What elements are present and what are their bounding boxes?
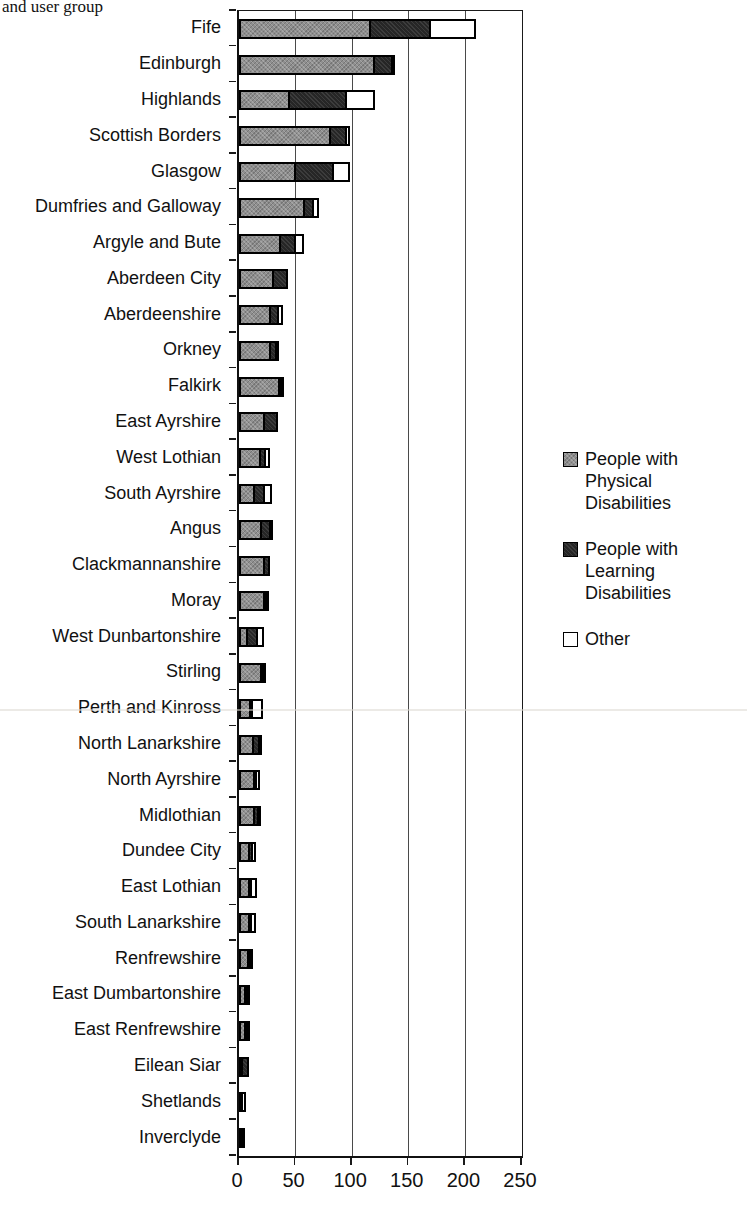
x-axis-label-100: 100 (320, 1169, 380, 1192)
y-axis-tick (229, 832, 236, 834)
bar-moray (239, 591, 269, 611)
category-label-highlands: Highlands (0, 82, 229, 118)
x-axis-tick-0 (237, 1158, 239, 1165)
category-label-falkirk: Falkirk (0, 368, 229, 404)
category-label-edinburgh: Edinburgh (0, 46, 229, 82)
bar-fife (239, 19, 476, 39)
bar-glasgow (239, 162, 350, 182)
y-axis-tick (229, 1047, 236, 1049)
segment-moray-other (265, 591, 269, 611)
segment-south-ayrshire-other (263, 484, 272, 504)
segment-angus-people-with-physical-disabilities (239, 520, 262, 540)
category-label-west-lothian: West Lothian (0, 439, 229, 475)
bar-east-lothian (239, 878, 257, 898)
legend-label: Other (585, 628, 630, 650)
y-axis-tick (229, 1011, 236, 1013)
category-label-perth-and-kinross: Perth and Kinross (0, 690, 229, 726)
segment-east-renfrewshire-other (246, 1021, 251, 1041)
y-axis-tick (229, 689, 236, 691)
category-label-north-ayrshire: North Ayrshire (0, 761, 229, 797)
bar-clackmannanshire (239, 556, 270, 576)
y-axis-tick (229, 116, 236, 118)
segment-shetlands-other (241, 1092, 246, 1112)
segment-highlands-people-with-learning-disabilities (288, 90, 347, 110)
category-label-dundee-city: Dundee City (0, 833, 229, 869)
segment-fife-other (429, 19, 477, 39)
gridline-200 (465, 11, 466, 1156)
y-axis-tick (229, 1154, 236, 1156)
segment-west-lothian-people-with-physical-disabilities (239, 448, 261, 468)
category-label-clackmannanshire: Clackmannanshire (0, 547, 229, 583)
bar-south-ayrshire (239, 484, 272, 504)
gridline-50 (295, 11, 296, 1156)
category-label-angus: Angus (0, 511, 229, 547)
category-label-moray: Moray (0, 583, 229, 619)
y-axis-tick (229, 152, 236, 154)
y-axis-tick (229, 474, 236, 476)
x-axis-tick-250 (520, 1158, 522, 1165)
bar-west-lothian (239, 448, 270, 468)
segment-aberdeenshire-other (277, 305, 283, 325)
y-axis-tick (229, 259, 236, 261)
x-axis-tick-100 (350, 1158, 352, 1165)
bar-dumfries-and-galloway (239, 198, 319, 218)
chart-page: and user group FifeEdinburghHighlandsSco… (0, 0, 747, 1205)
segment-edinburgh-people-with-physical-disabilities (239, 55, 375, 75)
segment-glasgow-people-with-physical-disabilities (239, 162, 296, 182)
segment-fife-people-with-physical-disabilities (239, 19, 371, 39)
bar-falkirk (239, 377, 284, 397)
segment-angus-other (269, 520, 273, 540)
y-axis-tick (229, 796, 236, 798)
segment-falkirk-other (280, 377, 284, 397)
segment-north-ayrshire-other (255, 770, 260, 790)
category-label-renfrewshire: Renfrewshire (0, 940, 229, 976)
segment-edinburgh-people-with-learning-disabilities (373, 55, 393, 75)
y-axis-tick (229, 331, 236, 333)
legend-label: People with Learning Disabilities (585, 538, 678, 604)
category-label-south-ayrshire: South Ayrshire (0, 475, 229, 511)
bar-scottish-borders (239, 126, 350, 146)
segment-highlands-other (345, 90, 376, 110)
segment-edinburgh-other (391, 55, 395, 75)
segment-argyle-and-bute-people-with-physical-disabilities (239, 234, 281, 254)
y-axis-tick (229, 546, 236, 548)
category-label-midlothian: Midlothian (0, 797, 229, 833)
y-axis-tick (229, 1118, 236, 1120)
category-label-stirling: Stirling (0, 654, 229, 690)
segment-highlands-people-with-physical-disabilities (239, 90, 290, 110)
category-label-glasgow: Glasgow (0, 153, 229, 189)
y-axis-tick (229, 760, 236, 762)
x-axis-tick-50 (294, 1158, 296, 1165)
segment-orkney-other (275, 341, 280, 361)
bar-inverclyde (239, 1128, 245, 1148)
segment-dumfries-and-galloway-people-with-physical-disabilities (239, 198, 305, 218)
y-axis-tick (229, 725, 236, 727)
bar-stirling (239, 663, 266, 683)
bar-east-ayrshire (239, 412, 278, 432)
y-axis-tick (229, 868, 236, 870)
bar-east-dumbartonshire (239, 985, 250, 1005)
segment-scottish-borders-other (345, 126, 351, 146)
bar-midlothian (239, 806, 261, 826)
segment-aberdeen-city-people-with-physical-disabilities (239, 269, 274, 289)
bar-aberdeenshire (239, 305, 283, 325)
category-label-argyle-and-bute: Argyle and Bute (0, 225, 229, 261)
segment-moray-people-with-physical-disabilities (239, 591, 265, 611)
category-label-east-lothian: East Lothian (0, 869, 229, 905)
segment-clackmannanshire-people-with-learning-disabilities (263, 556, 270, 576)
category-label-east-dumbartonshire: East Dumbartonshire (0, 976, 229, 1012)
y-axis-tick (229, 510, 236, 512)
legend-entry-other: Other (563, 628, 747, 650)
category-label-south-lanarkshire: South Lanarkshire (0, 905, 229, 941)
category-label-orkney: Orkney (0, 332, 229, 368)
y-axis-tick (229, 939, 236, 941)
gridline-150 (408, 11, 409, 1156)
x-axis-label-200: 200 (433, 1169, 493, 1192)
gridline-100 (352, 11, 353, 1156)
legend-swatch-physical-icon (563, 452, 578, 467)
bar-dundee-city (239, 842, 256, 862)
scan-artifact-line (0, 709, 747, 711)
y-axis-tick (229, 9, 236, 11)
category-label-east-ayrshire: East Ayrshire (0, 404, 229, 440)
category-label-dumfries-and-galloway: Dumfries and Galloway (0, 189, 229, 225)
